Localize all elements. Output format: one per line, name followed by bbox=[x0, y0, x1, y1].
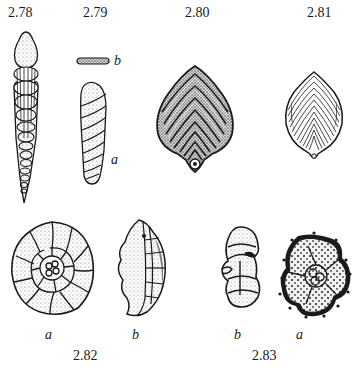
subfigure-letter-2-82-a: a bbox=[45, 328, 52, 342]
foraminifera-illustration-2-82b bbox=[113, 218, 169, 318]
foraminifera-illustration-2-82a bbox=[8, 218, 96, 318]
foraminifera-illustration-2-80 bbox=[152, 64, 238, 176]
figure-label-2-79: 2.79 bbox=[83, 6, 108, 20]
foraminifera-illustration-2-83b bbox=[218, 225, 266, 309]
foraminifera-illustration-2-79a bbox=[76, 80, 112, 190]
foraminifera-illustration-2-81 bbox=[282, 70, 346, 160]
subfigure-letter-2-83-b: b bbox=[234, 328, 241, 342]
subfigure-letter-2-79-a: a bbox=[111, 153, 118, 167]
figure-label-2-82: 2.82 bbox=[73, 349, 98, 363]
figure-label-2-78: 2.78 bbox=[8, 6, 33, 20]
subfigure-letter-2-82-b: b bbox=[132, 328, 139, 342]
subfigure-letter-2-79-b: b bbox=[114, 54, 121, 68]
figure-label-2-81: 2.81 bbox=[307, 6, 332, 20]
figure-label-2-83: 2.83 bbox=[252, 349, 277, 363]
figure-label-2-80: 2.80 bbox=[185, 6, 210, 20]
foraminifera-illustration-2-79b bbox=[76, 57, 110, 65]
foraminifera-illustration-2-78 bbox=[6, 28, 46, 206]
subfigure-letter-2-83-a: a bbox=[296, 328, 303, 342]
foraminifera-illustration-2-83a bbox=[278, 230, 352, 320]
